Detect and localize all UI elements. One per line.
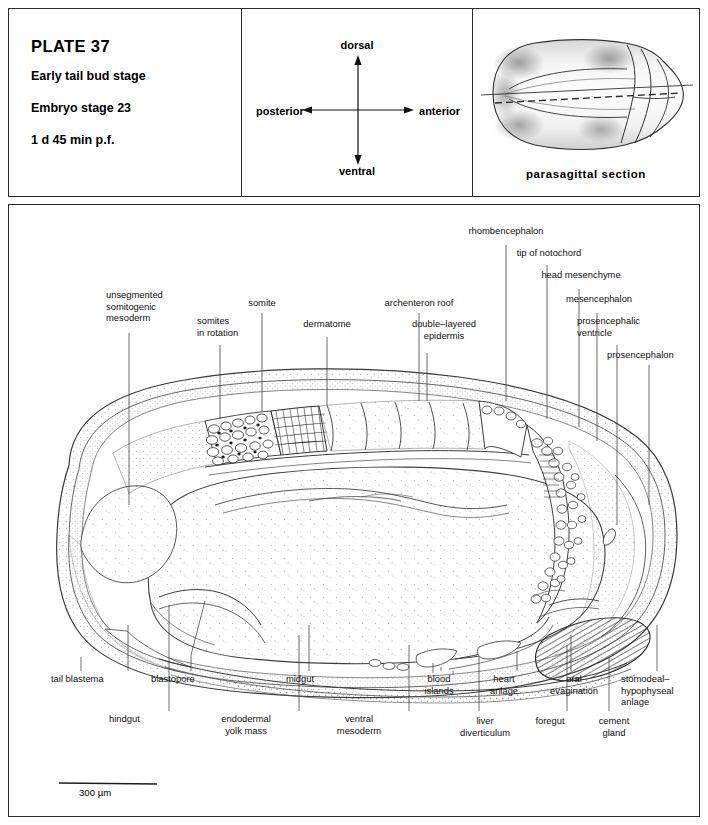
figure-panel: unsegmented somitogenic mesoderm somites…: [8, 204, 700, 817]
label-endodermal-yolk-mass: endodermal yolk mass: [191, 713, 301, 736]
label-blood-islands: blood islands: [411, 673, 467, 696]
label-somites-in-rotation: somites in rotation: [197, 315, 238, 338]
axis-label-ventral: ventral: [339, 165, 375, 177]
axis-label-dorsal: dorsal: [340, 39, 373, 51]
label-hindgut: hindgut: [109, 713, 140, 725]
arrow-dorsal-icon: [354, 55, 361, 65]
time-post-fertilization: 1 d 45 min p.f.: [31, 133, 114, 147]
label-prosencephalic-ventricle: prosencephalic ventricle: [577, 315, 640, 338]
scale-bar-line: [59, 783, 157, 784]
arrow-ventral-icon: [354, 155, 361, 165]
label-somite: somite: [231, 297, 293, 309]
somite-block: [271, 406, 327, 455]
axis-label-anterior: anterior: [419, 105, 460, 117]
label-unsegmented-somitogenic-mesoderm: unsegmented somitogenic mesoderm: [106, 289, 163, 324]
label-cement-gland: cement gland: [585, 715, 643, 738]
embryo-stage: Embryo stage 23: [31, 101, 131, 115]
scale-bar-label: 300 µm: [79, 787, 111, 798]
label-rhombencephalon: rhombencephalon: [441, 225, 571, 237]
label-blastopore: blastopore: [151, 673, 195, 685]
label-heart-anlage: heart anlage: [477, 673, 531, 696]
thumbnail-caption: parasagittal section: [473, 168, 699, 180]
label-double-layered-epidermis: double–layered epidermis: [389, 318, 499, 341]
arrow-anterior-icon: [404, 106, 414, 113]
orientation-compass: dorsal ventral posterior anterior: [242, 9, 472, 196]
header-row: PLATE 37 Early tail bud stage Embryo sta…: [8, 8, 700, 197]
label-archenteron-roof: archenteron roof: [349, 297, 489, 309]
label-dermatome: dermatome: [293, 318, 361, 330]
label-ventral-mesoderm: ventral mesoderm: [313, 713, 405, 736]
thumbnail-cell: parasagittal section: [473, 9, 699, 196]
label-midgut: midgut: [267, 673, 333, 685]
label-tail-blastema: tail blastema: [51, 673, 104, 685]
label-tip-of-notochord: tip of notochord: [489, 247, 609, 259]
label-oral-evagination: oral evagination: [531, 673, 617, 696]
label-foregut: foregut: [519, 715, 581, 727]
title-cell: PLATE 37 Early tail bud stage Embryo sta…: [9, 9, 241, 196]
plate-sheet: PLATE 37 Early tail bud stage Embryo sta…: [8, 8, 700, 817]
label-mesencephalon: mesencephalon: [537, 293, 661, 305]
label-head-mesenchyme: head mesenchyme: [515, 269, 647, 281]
axis-label-posterior: posterior: [256, 105, 304, 117]
label-prosencephalon: prosencephalon: [607, 349, 674, 361]
page-title: PLATE 37: [31, 37, 110, 56]
embryo-dorsal-view-thumbnail: [475, 19, 701, 179]
orientation-compass-cell: dorsal ventral posterior anterior: [241, 9, 473, 196]
label-stomodeal-hypophyseal-anlage: stomodeal– hypophyseal anlage: [621, 673, 674, 708]
stage-name: Early tail bud stage: [31, 69, 146, 83]
